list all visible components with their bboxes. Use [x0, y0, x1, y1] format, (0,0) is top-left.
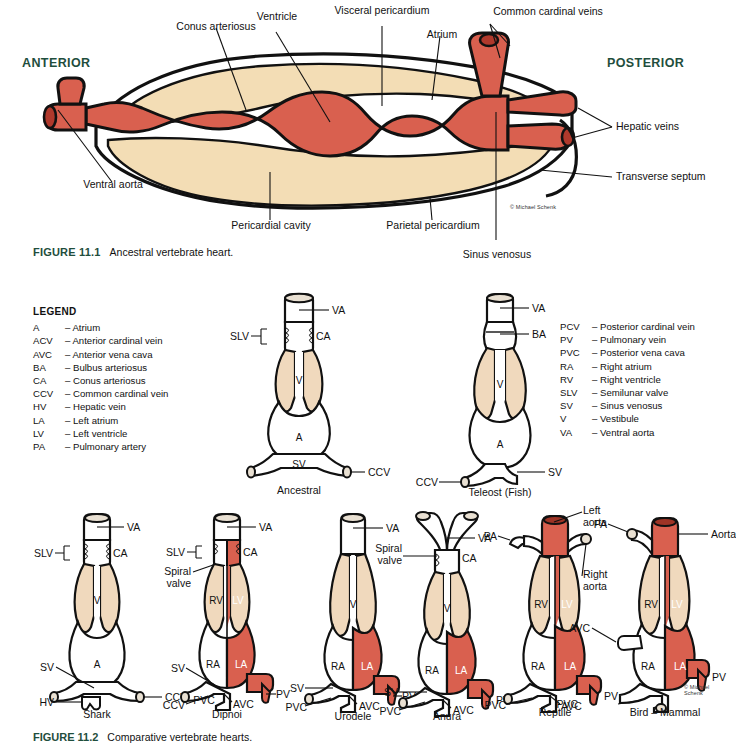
legend-left: LEGEND A– AtriumACV– Anterior cardinal v…	[33, 305, 168, 453]
bird-mammal-right-atrium	[633, 624, 665, 690]
reptile-right-atrium	[523, 624, 555, 690]
legend-term: – Pulmonary artery	[63, 440, 168, 453]
artist-credit-figure-1: © Michael Schenk	[510, 204, 556, 210]
label-transverse-septum: Transverse septum	[616, 170, 705, 182]
figure-11-2-caption-prefix: FIGURE 11.2	[33, 731, 98, 743]
legend-row: SLV– Semilunar valve	[560, 386, 695, 399]
anura-left-outflow-lumen	[416, 512, 430, 520]
legend-term: – Bulbus arteriosus	[63, 361, 168, 374]
urodele-va-lumen	[342, 514, 364, 522]
anura-callout-spiral-valve: Spiral valve	[358, 542, 402, 566]
legend-row: HV– Hepatic vein	[33, 400, 168, 413]
legend-term: – Hepatic vein	[63, 400, 168, 413]
legend-term: – Right atrium	[590, 360, 695, 373]
urodele-right-atrium	[324, 626, 353, 690]
bird-mammal-left-atrium	[665, 624, 695, 690]
legend-term: – Anterior cardinal vein	[63, 334, 168, 347]
artist-credit-figure-2: © Michael Schenk	[684, 684, 726, 696]
teleost-callout-va: VA	[532, 302, 545, 314]
heart-diagram-ancestral: V A SV VA SLV CA CCV Ancestral	[225, 292, 375, 492]
ancestral-ventricle-lumen	[295, 352, 303, 406]
anura-ventricle-lumen	[444, 574, 450, 636]
ventral-aorta-branch	[58, 78, 84, 104]
anterior-label: ANTERIOR	[22, 56, 90, 70]
bird-mammal-callout-pv: PV	[712, 671, 726, 683]
legend-abbr: HV	[33, 400, 63, 413]
heart-diagram-reptile: RV LV RA LA PA Left aorta Right aorta PV…	[484, 508, 614, 717]
legend-row: CCV– Common cardinal vein	[33, 387, 168, 400]
legend-term: – Semilunar valve	[590, 386, 695, 399]
dipnoi-callout-sv: SV	[171, 662, 185, 674]
legend-row: SV– Sinus venosus	[560, 399, 695, 412]
legend-term: – Posterior cardinal vein	[590, 320, 695, 333]
legend-term: – Pulmonary vein	[590, 333, 695, 346]
legend-term: – Anterior vena cava	[63, 348, 168, 361]
label-sinus-venosus: Sinus venosus	[463, 248, 531, 260]
legend-term: – Atrium	[63, 321, 168, 334]
bird-mammal-callout-pa: PA	[594, 518, 607, 530]
bird-mammal-pa-lumen	[627, 529, 637, 539]
label-ventricle: Ventricle	[257, 10, 297, 22]
dipnoi-callout-spiral-valve: Spiral valve	[143, 565, 191, 589]
bird-mammal-anterior-vena-cava	[618, 636, 642, 650]
label-hepatic-veins: Hepatic veins	[616, 120, 679, 132]
dipnoi-callout-pvc: PVC	[193, 694, 215, 706]
reptile-right-aorta-lumen	[581, 534, 591, 544]
legend-term: – Vestibule	[590, 412, 695, 425]
bird-mammal-lv-outer-wall	[669, 556, 689, 634]
legend-row: RV– Right ventricle	[560, 373, 695, 386]
ventral-aorta-lumen	[44, 106, 56, 128]
bird-mammal-callout-aorta: Aorta	[711, 528, 736, 540]
label-parietal-pericardium: Parietal pericardium	[386, 219, 479, 231]
legend-row: RA– Right atrium	[560, 360, 695, 373]
legend-row: PCV– Posterior cardinal vein	[560, 320, 695, 333]
dipnoi-species-name: Dipnoi	[212, 708, 242, 720]
reptile-right-aorta	[524, 536, 542, 554]
legend-term: – Common cardinal vein	[63, 387, 168, 400]
teleost-ventricle-lumen	[495, 350, 505, 412]
urodele-ventricle-lumen	[350, 556, 356, 632]
legend-term: – Left ventricle	[63, 427, 168, 440]
legend-term: – Sinus venosus	[590, 399, 695, 412]
label-conus-arteriosus: Conus arteriosus	[176, 20, 255, 32]
shark-callout-va: VA	[127, 521, 140, 533]
hepatic-vein-vessel	[508, 124, 570, 149]
legend-row: CA– Conus arteriosus	[33, 374, 168, 387]
common-cardinal-vein-lumen	[480, 34, 498, 46]
shark-callout-hv: HV	[39, 696, 54, 708]
posterior-label: POSTERIOR	[607, 56, 684, 70]
ancestral-conus	[285, 322, 313, 354]
legend-row: VA– Ventral aorta	[560, 426, 695, 439]
label-common-cardinal-veins: Common cardinal veins	[493, 5, 603, 17]
heart-diagram-shark: V A VA SLV CA SV HV CCV Shark	[26, 512, 156, 717]
label-pericardial-cavity: Pericardial cavity	[231, 219, 310, 231]
ancestral-sinus-venosus	[251, 454, 347, 476]
legend-abbr: CCV	[33, 387, 63, 400]
ancestral-ccv-left-lumen	[247, 467, 255, 478]
legend-row: BA– Bulbus arteriosus	[33, 361, 168, 374]
legend-row: LA– Left atrium	[33, 414, 168, 427]
legend-row: AVC– Anterior vena cava	[33, 348, 168, 361]
urodele-species-name: Urodele	[335, 710, 372, 722]
legend-term: – Conus arteriosus	[63, 374, 168, 387]
figure-11-2-caption: FIGURE 11.2 Comparative vertebrate heart…	[33, 731, 252, 743]
shark-ventricle-lumen	[94, 566, 100, 628]
legend-term: – Ventral aorta	[590, 426, 695, 439]
legend-right: PCV– Posterior cardinal veinPV– Pulmonar…	[560, 320, 695, 439]
shark-callout-sv: SV	[40, 661, 54, 673]
label-ventral-aorta: Ventral aorta	[83, 178, 143, 190]
legend-row: ACV– Anterior cardinal vein	[33, 334, 168, 347]
urodele-callout-pvc: PVC	[285, 701, 307, 713]
legend-abbr: BA	[33, 361, 63, 374]
shark-ccv-lumen	[136, 692, 144, 702]
legend-row: PV– Pulmonary vein	[560, 333, 695, 346]
ancestral-va-lumen	[285, 294, 313, 302]
teleost-va-lumen	[487, 294, 513, 302]
bird-mammal-aorta-lumen	[654, 518, 676, 526]
ancestral-callout-va: VA	[332, 304, 345, 316]
ancestral-species-name: Ancestral	[277, 484, 321, 496]
legend-row: LV– Left ventricle	[33, 427, 168, 440]
label-visceral-pericardium: Visceral pericardium	[335, 4, 430, 16]
shark-callout-ca: CA	[113, 547, 128, 559]
